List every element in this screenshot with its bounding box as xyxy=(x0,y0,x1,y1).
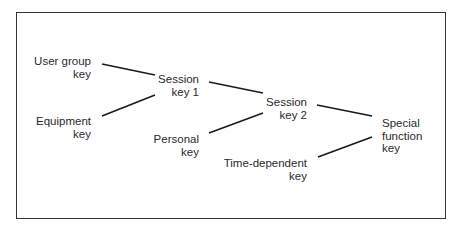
node-line: User group xyxy=(34,55,91,68)
node-equipment-key: Equipment key xyxy=(36,115,91,140)
node-special-function-key: Special function key xyxy=(382,117,422,155)
edge-session-2-to-special xyxy=(317,105,372,116)
node-line: key xyxy=(154,146,199,159)
edge-equipment-to-session-1 xyxy=(102,95,155,116)
node-line: Session xyxy=(266,96,307,109)
node-time-dependent-key: Time-dependent key xyxy=(224,157,307,182)
node-line: key xyxy=(382,142,422,155)
edge-personal-to-session-2 xyxy=(209,113,263,133)
node-line: key 2 xyxy=(266,109,307,122)
node-line: function xyxy=(382,130,422,143)
node-line: key 1 xyxy=(158,86,199,99)
node-line: Session xyxy=(158,73,199,86)
node-session-key-1: Session key 1 xyxy=(158,73,199,98)
node-line: Special xyxy=(382,117,422,130)
node-line: Time-dependent xyxy=(224,157,307,170)
node-line: Equipment xyxy=(36,115,91,128)
node-personal-key: Personal key xyxy=(154,133,199,158)
node-line: key xyxy=(34,68,91,81)
edge-session-1-to-session-2 xyxy=(209,82,263,93)
node-user-group-key: User group key xyxy=(34,55,91,80)
edge-user-group-to-session-1 xyxy=(102,64,155,75)
node-line: Personal xyxy=(154,133,199,146)
node-session-key-2: Session key 2 xyxy=(266,96,307,121)
edge-time-dependent-to-special xyxy=(318,137,372,157)
node-line: key xyxy=(224,170,307,183)
node-line: key xyxy=(36,128,91,141)
